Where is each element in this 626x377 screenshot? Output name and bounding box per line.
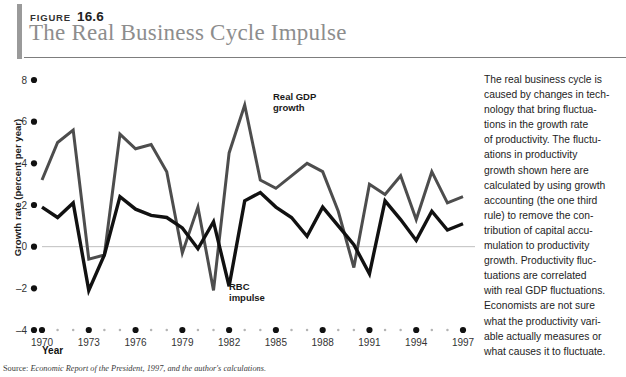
x-tick-marker-major <box>413 327 419 333</box>
x-tick-marker-major <box>179 327 185 333</box>
caption-line: tions in the growth rate <box>484 117 624 132</box>
header-divider <box>24 57 626 58</box>
caption-line: tribution of capital accu- <box>484 223 624 238</box>
caption-line: tuations are correlated <box>484 268 624 283</box>
x-tick-label: 1991 <box>358 337 381 348</box>
x-tick-marker-major <box>226 327 232 333</box>
x-tick-marker-minor <box>353 329 356 332</box>
y-tick-label: 8 <box>21 75 27 86</box>
series-label-real-gdp-line1: Real GDP <box>273 91 317 102</box>
x-tick-marker-minor <box>337 329 340 332</box>
y-tick-label: 4 <box>21 158 27 169</box>
figure-header: FIGURE16.6 The Real Business Cycle Impul… <box>0 0 626 62</box>
caption-line: caused by changes in tech- <box>484 87 624 102</box>
caption-line: able actually measures or <box>484 329 624 344</box>
x-tick-marker-minor <box>197 329 200 332</box>
caption-line: Economists are not sure <box>484 298 624 313</box>
x-tick-marker-minor <box>259 329 262 332</box>
x-tick-marker-minor <box>446 329 449 332</box>
x-tick-marker-minor <box>165 329 168 332</box>
page-title: The Real Business Cycle Impulse <box>29 20 347 46</box>
y-tick-marker <box>31 160 37 166</box>
source-note: Source: Economic Report of the President… <box>3 364 266 373</box>
x-tick-marker-major <box>460 327 466 333</box>
x-tick-marker-minor <box>384 329 387 332</box>
x-tick-label: 1973 <box>78 337 101 348</box>
x-tick-label: 1994 <box>405 337 428 348</box>
caption-line: growth shown here are <box>484 163 624 178</box>
x-tick-marker-minor <box>399 329 402 332</box>
y-tick-marker <box>31 244 37 250</box>
y-tick-marker <box>31 285 37 291</box>
x-tick-marker-major <box>320 327 326 333</box>
x-tick-label: 1982 <box>218 337 241 348</box>
y-tick-marker <box>31 202 37 208</box>
caption-line: with real GDP fluctuations. <box>484 283 624 298</box>
x-tick-marker-minor <box>119 329 122 332</box>
x-tick-label: 1985 <box>265 337 288 348</box>
caption-line: mulation to productivity <box>484 238 624 253</box>
x-tick-marker-minor <box>56 329 59 332</box>
source-prefix: Source: <box>3 364 28 373</box>
y-tick-marker <box>31 327 37 333</box>
x-tick-marker-minor <box>290 329 293 332</box>
caption-line: growth. Productivity fluc- <box>484 253 624 268</box>
x-tick-marker-major <box>132 327 138 333</box>
x-tick-marker-minor <box>103 329 106 332</box>
x-tick-marker-minor <box>150 329 153 332</box>
caption-line: ations in productivity <box>484 147 624 162</box>
x-tick-marker-major <box>273 327 279 333</box>
x-tick-label: 1976 <box>124 337 147 348</box>
x-tick-label: 1988 <box>312 337 335 348</box>
x-tick-marker-minor <box>243 329 246 332</box>
series-label-real-gdp-line2: growth <box>273 102 305 113</box>
x-tick-marker-major <box>366 327 372 333</box>
x-tick-marker-minor <box>212 329 215 332</box>
caption-line: The real business cycle is <box>484 72 624 87</box>
caption-line: calculated by using growth <box>484 178 624 193</box>
series-label-rbc-line1: RBC <box>229 281 250 292</box>
y-tick-label: 2 <box>21 200 27 211</box>
source-text: Economic Report of the President, 1997, … <box>30 364 266 373</box>
x-tick-marker-minor <box>431 329 434 332</box>
x-tick-label: 1997 <box>452 337 475 348</box>
y-tick-label: –2 <box>16 283 28 294</box>
line-chart: –4–2024681970197319761979198219851988199… <box>0 62 480 352</box>
caption-line: rule) to remove the con- <box>484 208 624 223</box>
x-tick-marker-major <box>39 327 45 333</box>
x-tick-marker-minor <box>72 329 75 332</box>
x-tick-label: 1979 <box>171 337 194 348</box>
chart-area: Growth rate (percent per year) –4–202468… <box>0 62 480 352</box>
caption-line: of productivity. The fluctu- <box>484 132 624 147</box>
x-axis-title: Year <box>42 345 63 356</box>
y-tick-marker <box>31 77 37 83</box>
y-tick-marker <box>31 119 37 125</box>
x-tick-marker-major <box>86 327 92 333</box>
caption-line: what causes it to fluctuate. <box>484 344 624 359</box>
x-tick-marker-minor <box>306 329 309 332</box>
series-label-rbc-line2: impulse <box>229 292 265 303</box>
y-tick-label: 0 <box>21 241 27 252</box>
caption-line: nology that bring fluctua- <box>484 102 624 117</box>
header-accent-bar <box>17 4 22 59</box>
y-tick-label: –4 <box>16 325 28 336</box>
caption-line: what the productivity vari- <box>484 314 624 329</box>
y-tick-label: 6 <box>21 116 27 127</box>
caption-line: accounting (the one third <box>484 193 624 208</box>
figure-page: FIGURE16.6 The Real Business Cycle Impul… <box>0 0 626 377</box>
caption-text: The real business cycle iscaused by chan… <box>484 72 624 359</box>
